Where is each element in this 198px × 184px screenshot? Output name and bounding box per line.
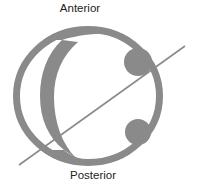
posterior-label: Posterior xyxy=(70,170,116,182)
eye-cross-section-diagram: Anterior Posterior xyxy=(0,0,198,184)
diagram-graphic xyxy=(0,0,198,184)
inner-c-band xyxy=(13,26,163,166)
lower-bump xyxy=(125,119,151,145)
anterior-label: Anterior xyxy=(60,3,100,15)
